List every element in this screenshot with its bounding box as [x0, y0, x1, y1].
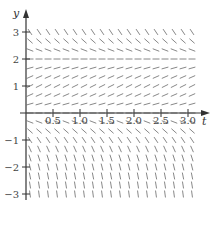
slope-mark [135, 76, 141, 79]
slope-mark [100, 137, 104, 143]
slope-mark [110, 182, 111, 189]
slope-mark [137, 164, 139, 171]
slope-mark [72, 76, 78, 79]
slope-mark [183, 191, 184, 198]
slope-mark [74, 164, 76, 171]
slope-mark [93, 191, 94, 198]
slope-mark [173, 182, 174, 189]
slope-mark [153, 94, 159, 97]
slope-mark [47, 173, 48, 180]
slope-mark [65, 173, 66, 180]
slope-mark [36, 94, 42, 97]
slope-mark [92, 173, 93, 180]
slope-mark [63, 76, 69, 79]
slope-mark [126, 39, 131, 44]
slope-mark [144, 129, 149, 134]
slope-mark [56, 155, 58, 162]
slope-mark [81, 94, 87, 97]
slope-mark [63, 84, 69, 87]
slope-mark [45, 67, 52, 69]
slope-mark [155, 155, 157, 162]
slope-mark [110, 164, 112, 171]
slope-mark [57, 191, 58, 198]
slope-mark [72, 39, 77, 44]
slope-mark [144, 121, 151, 124]
slope-mark [101, 164, 103, 171]
slope-mark [119, 146, 122, 152]
slope-mark [145, 137, 149, 143]
slope-mark [66, 191, 67, 198]
slope-mark [135, 67, 142, 69]
slope-mark [189, 94, 195, 97]
slope-mark [138, 191, 139, 198]
slope-mark [83, 155, 85, 162]
slope-mark [99, 76, 105, 79]
slope-mark [162, 39, 167, 44]
slope-mark [156, 191, 157, 198]
slope-mark [117, 84, 123, 87]
slope-mark [153, 129, 158, 134]
slope-mark [54, 49, 61, 52]
slope-mark [36, 76, 42, 79]
slope-mark [45, 103, 52, 105]
slope-mark [189, 49, 196, 52]
slope-mark [164, 146, 167, 152]
slope-mark [128, 146, 131, 152]
slope-mark [72, 129, 77, 134]
slope-mark [29, 155, 31, 162]
slope-mark [135, 39, 140, 44]
slope-mark [92, 182, 93, 189]
slope-mark [126, 49, 133, 52]
t-tick-label: 1.5 [99, 115, 115, 126]
slope-mark [165, 191, 166, 198]
slope-mark [73, 29, 77, 35]
slope-mark [38, 182, 39, 189]
slope-mark [54, 76, 60, 79]
slope-mark [126, 76, 132, 79]
slope-mark [119, 155, 121, 162]
slope-mark [110, 155, 112, 162]
slope-mark [144, 94, 150, 97]
slope-mark [37, 29, 41, 35]
slope-mark [99, 84, 105, 87]
slope-mark [74, 182, 75, 189]
slope-mark [171, 67, 178, 69]
slope-mark [47, 164, 49, 171]
slope-mark [117, 129, 122, 134]
slope-mark [82, 137, 86, 143]
slope-mark [180, 129, 185, 134]
slope-mark [162, 67, 169, 69]
slope-mark [171, 49, 178, 52]
slope-mark [118, 137, 122, 143]
slope-mark [171, 121, 178, 124]
slope-mark [100, 29, 104, 35]
slope-mark [29, 182, 30, 189]
slope-mark [99, 94, 105, 97]
slope-mark [81, 76, 87, 79]
slope-mark [153, 84, 159, 87]
slope-mark [162, 76, 168, 79]
slope-mark [191, 146, 194, 152]
slope-mark [64, 137, 68, 143]
slope-mark [182, 182, 183, 189]
slope-mark [135, 94, 141, 97]
slope-mark [72, 49, 79, 52]
slope-mark [63, 94, 69, 97]
slope-mark [137, 173, 138, 180]
slope-mark [182, 155, 184, 162]
slope-mark [154, 137, 158, 143]
slope-mark [135, 129, 140, 134]
slope-mark [90, 129, 95, 134]
slope-mark [75, 191, 76, 198]
slope-mark [108, 103, 115, 105]
slope-mark [36, 103, 43, 105]
slope-mark [36, 129, 41, 134]
slope-mark [108, 49, 115, 52]
slope-mark [27, 129, 32, 134]
slope-mark [191, 155, 193, 162]
slope-mark [56, 182, 57, 189]
slope-mark [180, 67, 187, 69]
slope-mark [81, 49, 88, 52]
slope-mark [190, 29, 194, 35]
slope-mark [63, 49, 70, 52]
